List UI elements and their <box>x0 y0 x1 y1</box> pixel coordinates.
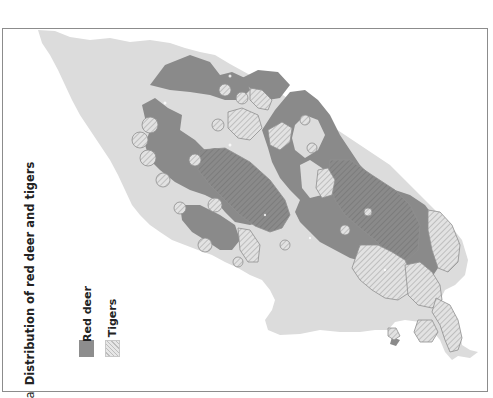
panel-letter: a <box>23 391 37 398</box>
title-text: Distribution of red deer and tigers <box>23 162 37 386</box>
legend-label-tigers: Tigers <box>106 299 119 338</box>
legend-swatch-tigers <box>105 340 120 357</box>
legend-label-red-deer: Red deer <box>81 286 94 342</box>
legend-swatch-red-deer <box>79 340 94 357</box>
figure-title: aDistribution of red deer and tigers <box>23 162 37 398</box>
